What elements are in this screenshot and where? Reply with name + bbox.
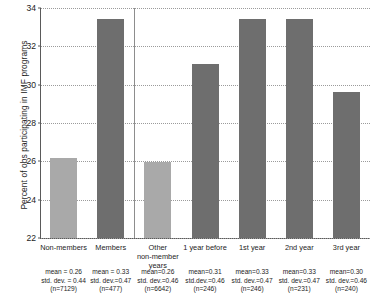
x-tick-label-line: 3rd year (314, 243, 374, 252)
y-tick-label: 28 (2, 118, 36, 128)
bar[interactable] (286, 19, 313, 238)
plot-area: 22242628303234 (40, 8, 370, 238)
bar[interactable] (97, 19, 124, 238)
y-tick-mark (38, 123, 41, 124)
y-tick-mark (38, 46, 41, 47)
y-tick-label: 34 (2, 3, 36, 13)
bar[interactable] (144, 162, 171, 238)
bar[interactable] (192, 64, 219, 238)
stat-n: (n=240) (315, 285, 374, 294)
stat-mean: mean=0.30 (315, 268, 374, 277)
stat-std-dev: std. dev.=0.46 (315, 277, 374, 286)
bar[interactable] (50, 158, 77, 239)
x-tick-label: 3rd year (314, 243, 374, 252)
bar-chart: Percent of obs participating in IMF prog… (0, 0, 374, 307)
bar[interactable] (239, 19, 266, 238)
y-tick-label: 24 (2, 195, 36, 205)
y-tick-mark (38, 238, 41, 239)
y-tick-mark (38, 161, 41, 162)
gridline (41, 8, 370, 9)
bar[interactable] (333, 92, 360, 238)
y-tick-label: 22 (2, 233, 36, 243)
y-tick-label: 26 (2, 156, 36, 166)
y-tick-mark (38, 84, 41, 85)
y-tick-mark (38, 8, 41, 9)
gridline (41, 46, 370, 47)
group-divider (134, 8, 135, 238)
y-tick-label: 32 (2, 41, 36, 51)
y-tick-mark (38, 199, 41, 200)
stat-annotation: mean=0.30std. dev.=0.46(n=240) (315, 268, 374, 294)
x-tick-label-line: non-member (126, 252, 190, 261)
y-tick-label: 30 (2, 80, 36, 90)
gridline (41, 238, 370, 239)
